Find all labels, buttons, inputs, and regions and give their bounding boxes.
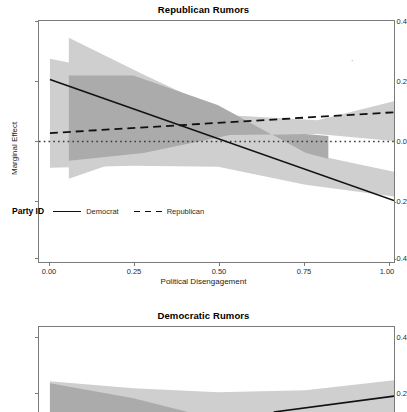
legend-label-republican: Republican <box>167 207 205 216</box>
stray-mark <box>352 60 353 61</box>
xtick-mark-4 <box>389 263 390 266</box>
plot-area-democratic <box>38 326 395 412</box>
xtick-label-4: 1.00 <box>367 267 407 276</box>
xtick-label-3: 0.75 <box>284 267 324 276</box>
legend-entry-republican[interactable]: Republican <box>134 207 205 216</box>
panel-republican-rumors: Republican Rumors 0.4 0.2 0.0 -0.2 -0.4 <box>0 0 407 300</box>
xtick-label-1: 0.25 <box>114 267 154 276</box>
xtick-label-2: 0.50 <box>199 267 239 276</box>
xtick-mark-1 <box>134 263 135 266</box>
facet-title-republican: Republican Rumors <box>0 4 407 15</box>
xtick-mark-3 <box>304 263 305 266</box>
xtick-mark-0 <box>49 263 50 266</box>
facet-title-democratic: Democratic Rumors <box>0 310 407 321</box>
republican-key-icon <box>134 207 162 216</box>
xtick-mark-2 <box>219 263 220 266</box>
plot-area-republican <box>38 20 395 263</box>
y-axis-title: Marginal Effect <box>10 122 19 175</box>
xtick-label-0: 0.00 <box>29 267 69 276</box>
legend-entry-democrat[interactable]: Democrat <box>53 207 119 216</box>
democratic-rumors-plot <box>39 327 394 412</box>
republican-rumors-plot <box>39 21 394 262</box>
democrat-key-icon <box>53 207 81 216</box>
figure-root: Republican Rumors 0.4 0.2 0.0 -0.2 -0.4 <box>0 0 407 412</box>
x-axis-title: Political Disengagement <box>0 277 407 286</box>
legend-title: Party ID <box>12 206 44 216</box>
legend: Party ID Democrat Republican <box>12 206 204 216</box>
legend-label-democrat: Democrat <box>86 207 119 216</box>
